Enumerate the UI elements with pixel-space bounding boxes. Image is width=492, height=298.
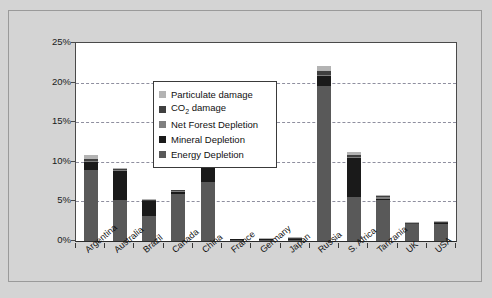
x-axis-tick-mark	[163, 243, 164, 248]
legend-swatch-icon	[159, 91, 166, 98]
bar-segment	[113, 171, 127, 200]
bar-segment	[201, 182, 215, 241]
legend-item[interactable]: CO2 damage	[159, 102, 270, 117]
x-axis-tick-mark	[75, 243, 76, 248]
bar-segment	[347, 158, 361, 197]
bar-segment	[142, 201, 156, 215]
bar-stack[interactable]	[347, 152, 361, 241]
bar-segment	[171, 194, 185, 241]
bar-stack[interactable]	[376, 195, 390, 241]
plot-area: Particulate damageCO2 damageNet Forest D…	[75, 42, 457, 242]
legend-item-label: CO2 damage	[171, 103, 226, 117]
y-axis-tick-label: 25%	[31, 37, 71, 46]
bar-segment	[201, 167, 215, 183]
x-axis-tick-mark	[338, 243, 339, 248]
legend-swatch-icon	[159, 136, 166, 143]
x-axis-tick-mark	[397, 243, 398, 248]
legend-item-label: Net Forest Depletion	[171, 120, 258, 130]
legend-swatch-icon	[159, 151, 166, 158]
legend-item[interactable]: Energy Depletion	[159, 147, 270, 162]
legend-item-label: Energy Depletion	[171, 150, 244, 160]
bar-segment	[84, 170, 98, 241]
chart-frame: 0%5%10%15%20%25% Particulate damageCO2 d…	[8, 10, 482, 282]
legend-item-label: Particulate damage	[171, 90, 253, 100]
x-axis-tick-mark	[250, 243, 251, 248]
bar-stack[interactable]	[84, 155, 98, 241]
bar-segment	[347, 197, 361, 241]
x-axis-tick-mark	[133, 243, 134, 248]
legend-item-label: Mineral Depletion	[171, 135, 245, 145]
y-axis-tick-label: 20%	[31, 77, 71, 86]
chart-legend: Particulate damageCO2 damageNet Forest D…	[153, 81, 277, 168]
x-axis-tick-mark	[426, 243, 427, 248]
bar-segment	[317, 76, 331, 86]
legend-swatch-icon	[159, 106, 166, 113]
x-axis-tick-mark	[367, 243, 368, 248]
x-axis-tick-mark	[455, 243, 456, 248]
legend-item[interactable]: Net Forest Depletion	[159, 117, 270, 132]
y-axis: 0%5%10%15%20%25%	[27, 42, 71, 242]
x-axis-tick-mark	[221, 243, 222, 248]
x-axis-tick-mark	[104, 243, 105, 248]
legend-swatch-icon	[159, 121, 166, 128]
bar-stack[interactable]	[171, 190, 185, 241]
legend-item[interactable]: Mineral Depletion	[159, 132, 270, 147]
x-axis-tick-mark	[309, 243, 310, 248]
bar-segment	[84, 162, 98, 170]
y-axis-tick-label: 0%	[31, 235, 71, 244]
y-axis-tick-label: 5%	[31, 195, 71, 204]
bar-stack[interactable]	[317, 66, 331, 241]
bar-segment	[317, 86, 331, 241]
x-axis-tick-mark	[280, 243, 281, 248]
legend-item[interactable]: Particulate damage	[159, 87, 270, 102]
y-axis-tick-label: 10%	[31, 156, 71, 165]
y-axis-tick-label: 15%	[31, 116, 71, 125]
x-axis-tick-mark	[192, 243, 193, 248]
